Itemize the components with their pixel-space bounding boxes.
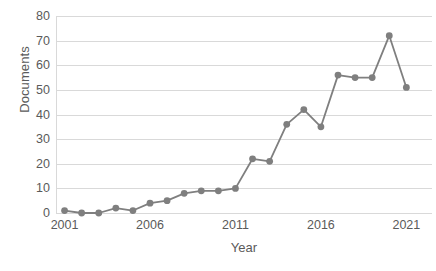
data-point-marker: [249, 155, 256, 162]
data-point-marker: [112, 205, 119, 212]
x-axis-tick-label: 2001: [35, 219, 95, 232]
plot-area: [56, 16, 432, 213]
y-axis-tick-label: 40: [24, 109, 50, 122]
data-point-marker: [78, 210, 85, 217]
documents-series: [56, 16, 432, 213]
data-point-marker: [95, 210, 102, 217]
data-point-marker: [198, 187, 205, 194]
line-chart: Documents 01020304050607080 200120062011…: [0, 0, 436, 271]
data-point-marker: [318, 123, 325, 130]
series-markers: [61, 32, 410, 216]
y-axis-tick-label: 70: [24, 35, 50, 48]
data-point-marker: [386, 32, 393, 39]
data-point-marker: [266, 158, 273, 165]
data-point-marker: [352, 74, 359, 81]
data-point-marker: [147, 200, 154, 207]
data-point-marker: [215, 187, 222, 194]
data-point-marker: [130, 207, 137, 214]
data-point-marker: [403, 84, 410, 91]
data-point-marker: [164, 197, 171, 204]
gridline: [56, 213, 432, 214]
y-axis-tick-label: 10: [24, 182, 50, 195]
data-point-marker: [181, 190, 188, 197]
data-point-marker: [232, 185, 239, 192]
x-axis-title: Year: [56, 240, 432, 255]
x-axis-tick-labels: 20012006201120162021: [0, 219, 436, 237]
x-axis-tick-label: 2011: [205, 219, 265, 232]
data-point-marker: [283, 121, 290, 128]
data-point-marker: [300, 106, 307, 113]
x-axis-tick-label: 2021: [376, 219, 436, 232]
data-point-marker: [369, 74, 376, 81]
data-point-marker: [335, 72, 342, 79]
x-axis-tick-label: 2016: [291, 219, 351, 232]
data-point-marker: [61, 207, 68, 214]
x-axis-tick-label: 2006: [120, 219, 180, 232]
y-axis-tick-label: 20: [24, 158, 50, 171]
y-axis-tick-label: 0: [24, 207, 50, 220]
caption-cutoff-artifact: [0, 264, 436, 271]
y-axis-tick-label: 50: [24, 84, 50, 97]
y-axis-tick-label: 80: [24, 10, 50, 23]
y-axis-tick-label: 60: [24, 59, 50, 72]
y-axis-tick-label: 30: [24, 133, 50, 146]
